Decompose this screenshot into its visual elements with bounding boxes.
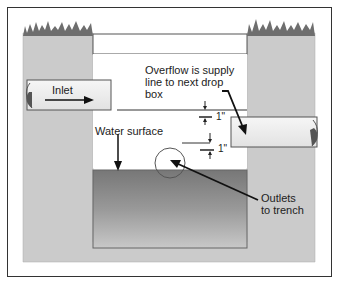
overflow-label-line3: box (145, 88, 163, 100)
dimension-lower-label: 1" (218, 143, 227, 155)
outlets-label-line1: Outlets (261, 192, 296, 204)
dimension-upper-label: 1" (216, 111, 225, 123)
drop-box-top (93, 34, 247, 54)
outlets-label-line2: to trench (261, 204, 304, 216)
grass-right (247, 19, 315, 36)
inlet-label: Inlet (52, 84, 73, 96)
drop-box-diagram (0, 0, 341, 283)
water-body (93, 170, 247, 248)
overflow-label-line1: Overflow is supply (145, 64, 234, 76)
overflow-label-line2: line to next drop (145, 76, 223, 88)
water-surface-label: Water surface (95, 125, 163, 137)
grass-left (23, 21, 93, 36)
